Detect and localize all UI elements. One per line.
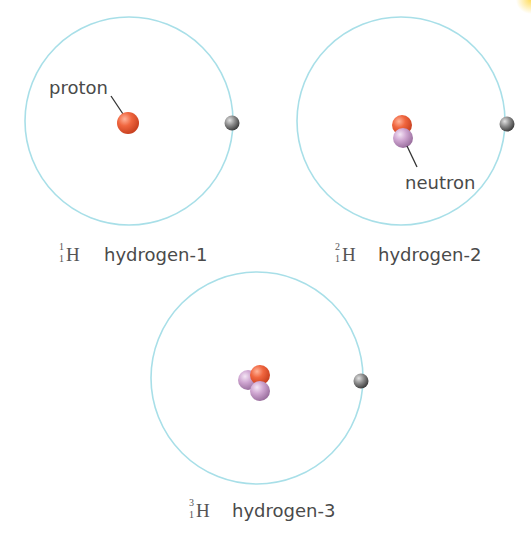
- hydrogen-isotopes-diagram: proton 1 1 H hydrogen-1 neutron 2 1 H hy…: [0, 0, 531, 533]
- proton: [117, 112, 139, 134]
- neutron-pointer-line: [407, 146, 417, 167]
- atom-hydrogen-2: neutron 2 1 H hydrogen-2: [297, 17, 515, 265]
- mass-number: 3: [189, 497, 194, 508]
- proton-label: proton: [49, 77, 108, 98]
- neutron-label: neutron: [405, 172, 475, 193]
- mass-number: 1: [59, 241, 64, 252]
- mass-number: 2: [335, 241, 340, 252]
- atom-hydrogen-3: 3 1 H hydrogen-3: [151, 272, 369, 521]
- isotope-notation: 1 1 H: [59, 241, 80, 265]
- element-symbol: H: [342, 244, 356, 265]
- element-symbol: H: [66, 244, 80, 265]
- element-symbol: H: [196, 500, 210, 521]
- isotope-notation: 3 1 H: [189, 497, 210, 521]
- proton-pointer-line: [111, 96, 123, 114]
- atomic-number: 1: [59, 253, 64, 264]
- isotope-notation: 2 1 H: [335, 241, 356, 265]
- electron: [354, 374, 369, 389]
- electron: [225, 116, 240, 131]
- isotope-name: hydrogen-1: [104, 244, 207, 265]
- isotope-name: hydrogen-3: [232, 500, 335, 521]
- atom-hydrogen-1: proton 1 1 H hydrogen-1: [25, 17, 240, 265]
- isotope-name: hydrogen-2: [378, 244, 481, 265]
- neutron: [393, 128, 413, 148]
- neutron: [250, 381, 270, 401]
- atomic-number: 1: [335, 253, 340, 264]
- corner-highlight: [516, 0, 531, 14]
- electron: [500, 117, 515, 132]
- atomic-number: 1: [189, 509, 194, 520]
